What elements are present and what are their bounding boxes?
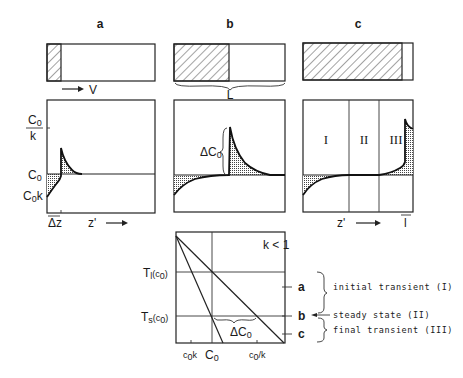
z-arrow-a (106, 220, 128, 226)
stage-label-c: c (298, 327, 305, 341)
x-tick-c0-over-k: c0/k (249, 350, 266, 362)
profile-panel-a (47, 100, 155, 213)
delta-z-label: Δz (48, 216, 62, 230)
steady-state-arrow (311, 313, 330, 317)
small-l-label: l (404, 216, 407, 230)
solid-region-a (47, 44, 61, 81)
velocity-label: V (89, 83, 97, 97)
bar-c (303, 43, 413, 80)
tl-label: Tl(c0) (143, 266, 168, 281)
legend-final-transient: final transient (III) (333, 325, 453, 335)
y-label-c0: C0 (28, 168, 42, 183)
x-tick-c0k: c0k (183, 350, 198, 362)
z-arrow-c (356, 220, 381, 226)
ts-label: Ts(c0) (141, 310, 168, 325)
velocity-arrow: V (62, 83, 97, 97)
profile-panel-c (303, 100, 413, 212)
column-header-a: a (97, 17, 104, 31)
condition-label: k < 1 (263, 238, 290, 252)
legend-initial-transient: initial transient (I) (333, 282, 453, 292)
svg-text:C0: C0 (28, 113, 42, 128)
column-header-c: c (355, 17, 362, 31)
y-label-c0-over-k: C0 k (26, 113, 43, 143)
solidification-diagram: a b c V L C0 k C0 C0k Δz z' (0, 0, 463, 378)
region-label-2: II (360, 132, 369, 147)
brace-initial (317, 272, 327, 313)
region-label-1: I (324, 132, 328, 147)
z-prime-label-c: z' (337, 216, 345, 230)
y-label-c0k: C0k (23, 189, 44, 204)
stage-label-a: a (298, 280, 305, 294)
svg-text:k: k (30, 129, 37, 143)
profile-panel-b (174, 100, 285, 212)
solid-region-b (174, 44, 229, 81)
bar-a (47, 44, 155, 81)
column-header-b: b (226, 17, 233, 31)
legend-steady-state: steady state (II) (333, 310, 430, 320)
z-prime-label-a: z' (88, 216, 96, 230)
x-tick-c0: C0 (205, 348, 219, 363)
brace-final (317, 318, 327, 342)
bar-b (174, 44, 285, 81)
region-label-3: III (390, 132, 403, 147)
solid-region-c (303, 43, 402, 80)
stage-label-b: b (298, 309, 305, 323)
